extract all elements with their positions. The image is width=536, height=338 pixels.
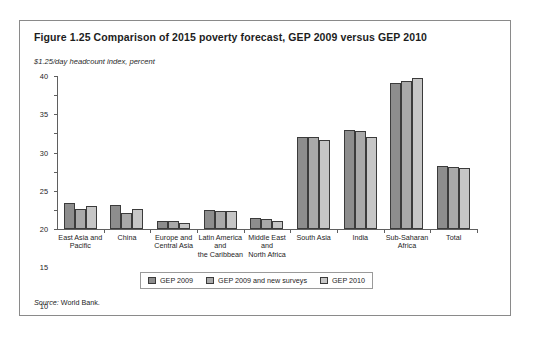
bar [437,166,448,229]
y-axis-tick-label: 30 [40,148,48,157]
bar [226,211,237,229]
x-axis-tick [244,229,245,233]
bar [132,209,143,229]
x-axis-line [57,229,477,230]
legend-item[interactable]: GEP 2009 and new surveys [206,276,307,285]
bar-groups: East Asia and PacificChinaEurope and Cen… [57,76,477,229]
figure-subtitle: $1.25/day headcount index, percent [34,57,334,66]
bar [168,221,179,229]
bar [297,137,308,229]
legend-item[interactable]: GEP 2009 [148,276,193,285]
bar [250,218,261,229]
figure-title: Figure 1.25 Comparison of 2015 poverty f… [34,31,504,43]
figure-panel: Figure 1.25 Comparison of 2015 poverty f… [19,20,511,316]
bar-group: Middle East and North Africa [244,76,291,229]
source-text: World Bank. [59,298,100,307]
legend-item[interactable]: GEP 2010 [320,276,365,285]
bar [459,168,470,229]
bar [448,167,459,229]
bar [204,210,215,229]
bar [157,221,168,229]
legend-label: GEP 2009 and new surveys [218,276,307,285]
x-axis-tick [337,229,338,233]
legend-swatch-icon [320,277,328,284]
bar [86,206,97,229]
bar [121,213,132,229]
legend-label: GEP 2009 [160,276,193,285]
bar [75,209,86,229]
bar [401,81,412,229]
bar [215,211,226,229]
y-axis-tick-label: 20 [40,225,48,234]
bar [344,130,355,229]
chart-legend: GEP 2009GEP 2009 and new surveysGEP 2010 [140,272,373,289]
bar-group: India [337,76,384,229]
bar [319,140,330,229]
x-axis-tick [384,229,385,233]
x-axis-tick [104,229,105,233]
bar [390,83,401,229]
bar-group: East Asia and Pacific [57,76,104,229]
bar [412,78,423,229]
bar-group: Latin America and the Caribbean [197,76,244,229]
y-axis-tick-label: 35 [40,110,48,119]
x-axis-tick [290,229,291,233]
legend-swatch-icon [206,277,214,284]
bar [308,137,319,229]
bar [110,205,121,229]
bar [355,131,366,229]
source-label: Source: [34,298,59,307]
bar-group: Sub-Saharan Africa [384,76,431,229]
legend-swatch-icon [148,277,156,284]
bar-group: China [104,76,151,229]
x-axis-tick [477,229,478,233]
x-axis-tick [150,229,151,233]
bar [261,219,272,229]
bar [272,221,283,229]
source-note: Source: World Bank. [34,298,100,307]
legend-label: GEP 2010 [332,276,365,285]
y-axis-tick-label: 15 [40,263,48,272]
y-axis-tick-label: 40 [40,72,48,81]
bar-chart-plot: 0510152025303540 East Asia and PacificCh… [57,76,477,229]
x-axis-tick [430,229,431,233]
bar-group: Europe and Central Asia [150,76,197,229]
y-axis-tick-label: 25 [40,186,48,195]
x-axis-category-label: Total [423,234,485,242]
y-axis-tick: 0 [54,229,58,230]
bar-group: South Asia [290,76,337,229]
bar [179,223,190,230]
bar [366,137,377,229]
bar-group: Total [430,76,477,229]
bar [64,203,75,229]
